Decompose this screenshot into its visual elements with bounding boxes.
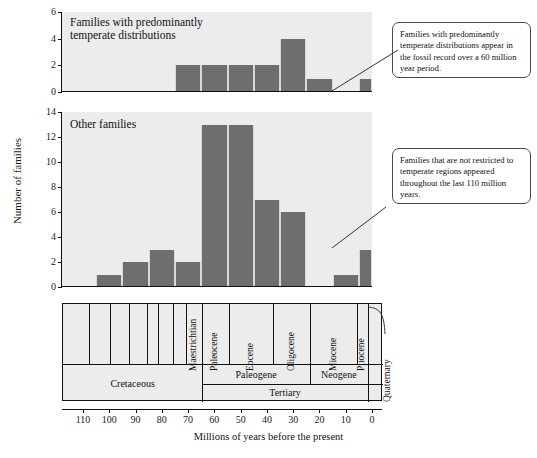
callout-temperate: Families with predominantly temperate di… (392, 22, 531, 78)
era-label: Tertiary (202, 387, 368, 398)
x-axis-tick-label: 0 (359, 415, 385, 425)
y-axis-tick-label: 2 (34, 257, 56, 267)
era-right-boundary (368, 364, 369, 402)
x-axis-line-top (62, 91, 372, 92)
x-axis-tick-label: 100 (96, 415, 122, 425)
x-axis-tick (162, 409, 163, 413)
epoch-label: Oligocene (286, 332, 296, 371)
x-axis: 1101009080706050403020100 (62, 409, 382, 431)
chart-panel-other (62, 112, 372, 287)
x-axis-tick (267, 409, 268, 413)
bar (201, 65, 227, 92)
epoch-boundary-line (273, 304, 274, 364)
x-axis-tick-label: 90 (123, 415, 149, 425)
bar (280, 39, 306, 92)
x-axis-tick (109, 409, 110, 413)
bar (201, 125, 227, 288)
x-axis-tick (136, 409, 137, 413)
cretaceous-subdivision-line (110, 304, 111, 364)
y-axis-tick-label: 4 (34, 34, 56, 44)
y-axis-tick (58, 287, 62, 288)
epoch-boundary-line (202, 304, 203, 364)
quaternary-label: Quaternary (382, 359, 392, 402)
callout-leader-line-temperate (330, 48, 400, 94)
y-axis-tick-label: 6 (34, 207, 56, 217)
chart-title-temperate: Families with predominantly temperate di… (70, 16, 203, 42)
x-axis-tick (83, 409, 84, 413)
bar (228, 65, 254, 92)
callout-leader-line-other (330, 205, 388, 251)
epoch-label: Miocene (328, 338, 338, 371)
epoch-boundary-line (229, 304, 230, 364)
y-axis-tick-label: 0 (34, 87, 56, 97)
x-axis-tick (372, 409, 373, 413)
x-axis-tick-label: 30 (280, 415, 306, 425)
cretaceous-subdivision-line (147, 304, 148, 364)
period-label: Paleogene (202, 369, 310, 380)
callout-other: Families that are not restricted to temp… (392, 148, 531, 204)
figure-root: Number of families 0246 Families with pr… (0, 0, 537, 458)
x-axis-tick-label: 40 (254, 415, 280, 425)
y-axis-bottom-chart: 02468101214 (32, 112, 62, 287)
x-axis-tick-label: 60 (201, 415, 227, 425)
x-axis-tick-label: 10 (333, 415, 359, 425)
y-axis-top-chart: 0246 (32, 12, 62, 92)
bar (175, 262, 201, 287)
y-axis-tick-label: 2 (34, 60, 56, 70)
y-axis-tick-label: 8 (34, 182, 56, 192)
epoch-boundary-line (310, 304, 311, 364)
chart-title-other: Other families (70, 118, 136, 131)
cretaceous-subdivision-line (129, 304, 130, 364)
bar (359, 250, 372, 288)
epoch-label: Eocene (245, 343, 255, 371)
epoch-label: Paleocene (209, 332, 219, 371)
x-axis-line-bottom (62, 286, 372, 287)
bar (228, 125, 254, 288)
cretaceous-subdivision-line (89, 304, 90, 364)
x-axis-tick-label: 110 (70, 415, 96, 425)
bar (254, 200, 280, 288)
cretaceous-subdivision-line (158, 304, 159, 364)
period-label: Neogene (310, 369, 368, 380)
x-axis-tick (241, 409, 242, 413)
y-axis-tick-label: 4 (34, 232, 56, 242)
x-axis-tick (293, 409, 294, 413)
period-label: Cretaceous (63, 378, 202, 389)
bar (122, 262, 148, 287)
x-axis-title: Millions of years before the present (0, 431, 537, 442)
x-axis-tick (346, 409, 347, 413)
period-row-rule (202, 384, 383, 385)
epoch-label: Maestrichtian (188, 319, 198, 371)
y-axis-tick-label: 6 (34, 7, 56, 17)
x-axis-tick-label: 80 (149, 415, 175, 425)
x-axis-tick-label: 70 (175, 415, 201, 425)
bar-series-other (62, 112, 372, 287)
x-axis-tick (188, 409, 189, 413)
bar (306, 79, 332, 92)
x-axis-tick-label: 50 (228, 415, 254, 425)
y-axis-tick-label: 14 (34, 107, 56, 117)
x-axis-tick (214, 409, 215, 413)
bar (149, 250, 175, 288)
y-axis-tick-label: 10 (34, 157, 56, 167)
epoch-label: Pliocene (356, 338, 366, 371)
bar (175, 65, 201, 92)
y-axis-tick-label: 12 (34, 132, 56, 142)
y-axis-tick (58, 92, 62, 93)
x-axis-tick-label: 20 (306, 415, 332, 425)
y-axis-tick-label: 0 (34, 282, 56, 292)
y-axis-title: Number of families (11, 101, 23, 261)
geologic-timescale: MaestrichtianPaleoceneEoceneOligoceneMio… (62, 303, 382, 401)
bar (254, 65, 280, 92)
bar (280, 212, 306, 287)
cretaceous-subdivision-line (173, 304, 174, 364)
x-axis-tick (319, 409, 320, 413)
quaternary-bracket (367, 303, 393, 337)
